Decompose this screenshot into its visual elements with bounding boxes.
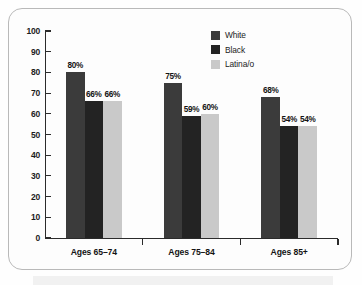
y-axis-tick xyxy=(45,30,51,31)
y-axis-tick-label-wrap: 20 xyxy=(10,192,40,202)
y-axis-tick xyxy=(45,217,51,218)
y-axis-tick-label-wrap: 60 xyxy=(10,109,40,119)
legend-item: Black xyxy=(211,44,254,56)
bar-value-label: 68% xyxy=(257,86,284,95)
x-axis-group-label: Ages 65–74 xyxy=(45,247,143,257)
y-axis-tick-label: 70 xyxy=(14,88,40,98)
y-axis-tick-label-wrap: 10 xyxy=(10,212,40,222)
y-axis-tick-label: 90 xyxy=(14,47,40,57)
y-axis-tick xyxy=(45,72,51,73)
y-axis-tick-label-wrap: 70 xyxy=(10,88,40,98)
bar-value-label: 80% xyxy=(62,61,89,70)
y-axis-tick-label: 60 xyxy=(14,109,40,119)
bar xyxy=(182,116,201,238)
y-axis-tick-label: 40 xyxy=(14,150,40,160)
y-axis-tick-label-wrap: 40 xyxy=(10,150,40,160)
legend-item: White xyxy=(211,29,254,41)
scan-artifact-strip xyxy=(33,276,333,285)
legend-swatch xyxy=(211,45,220,54)
y-axis-tick xyxy=(45,196,51,197)
y-axis-tick xyxy=(45,175,51,176)
legend-swatch xyxy=(211,60,220,69)
x-axis-tick xyxy=(240,239,241,245)
y-axis-tick-label-wrap: 90 xyxy=(10,47,40,57)
legend-label: Latina/o xyxy=(225,59,254,69)
y-axis-tick xyxy=(45,134,51,135)
x-axis-tick xyxy=(337,239,338,245)
chart-legend: WhiteBlackLatina/o xyxy=(211,29,254,73)
bar xyxy=(103,101,122,238)
x-axis-group-label: Ages 75–84 xyxy=(143,247,241,257)
legend-label: White xyxy=(225,30,246,40)
bar-value-label: 75% xyxy=(160,72,187,81)
y-axis-tick-label-wrap: 50 xyxy=(10,130,40,140)
y-axis-tick-label: 0 xyxy=(14,233,40,243)
y-axis-tick-label-wrap: 100 xyxy=(10,26,40,36)
y-axis-tick-label-wrap: 30 xyxy=(10,171,40,181)
bar-value-label: 60% xyxy=(197,103,224,112)
legend-item: Latina/o xyxy=(211,58,254,70)
x-axis-tick xyxy=(142,239,143,245)
x-axis-line xyxy=(45,238,338,239)
y-axis-tick xyxy=(45,237,51,238)
bar xyxy=(280,126,299,238)
y-axis-tick-label: 10 xyxy=(14,212,40,222)
bar-value-label: 66% xyxy=(99,90,126,99)
y-axis-tick-label-wrap: 80 xyxy=(10,67,40,77)
y-axis-tick-label: 80 xyxy=(14,67,40,77)
y-axis-tick-label: 100 xyxy=(14,26,40,36)
y-axis-tick-label: 30 xyxy=(14,171,40,181)
y-axis-tick-label: 50 xyxy=(14,130,40,140)
bar xyxy=(85,101,104,238)
legend-swatch xyxy=(211,31,220,40)
scanned-page: 1009080706050403020100 80%66%66%75%59%60… xyxy=(0,0,362,285)
x-axis-group-label: Ages 85+ xyxy=(240,247,338,257)
bar-value-label: 54% xyxy=(294,115,321,124)
y-axis-tick-label-wrap: 0 xyxy=(10,233,40,243)
y-axis-tick xyxy=(45,155,51,156)
y-axis-tick xyxy=(45,113,51,114)
bar xyxy=(298,126,317,238)
legend-label: Black xyxy=(225,45,245,55)
y-axis-tick xyxy=(45,93,51,94)
y-axis-tick-label: 20 xyxy=(14,192,40,202)
bar xyxy=(201,114,220,238)
y-axis-tick xyxy=(45,51,51,52)
